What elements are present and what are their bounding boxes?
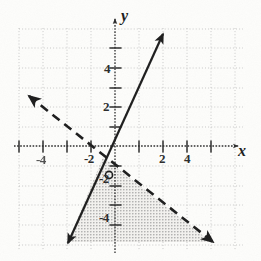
y-tick-label-2: 2 <box>103 100 109 113</box>
y-tick-label-neg4: -4 <box>99 211 109 224</box>
shaded-solution-region <box>68 157 211 242</box>
x-tick-label-2: 2 <box>159 152 165 165</box>
y-axis-label: y <box>121 8 128 24</box>
y-tick-label-neg2: -2 <box>99 172 109 185</box>
x-tick-label-4: 4 <box>184 152 190 165</box>
x-tick-label-neg2: -2 <box>84 152 94 165</box>
graph-figure: y x -4 -2 2 4 4 2 -2 -4 <box>0 0 261 261</box>
coordinate-plot <box>0 0 261 261</box>
x-tick-label-neg4: -4 <box>36 153 46 166</box>
y-tick-label-4: 4 <box>104 62 110 75</box>
x-axis-label: x <box>238 143 246 159</box>
